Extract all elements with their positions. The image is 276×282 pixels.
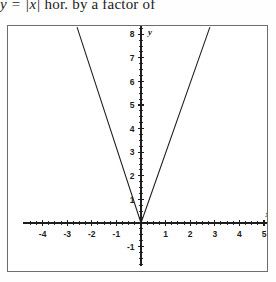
x-tick-label: -3 — [63, 229, 71, 239]
tick-labels-group: -4-3-2-112345-112345678 — [39, 29, 267, 251]
y-tick-label: 5 — [130, 100, 135, 110]
axis-labels-group: xy — [147, 27, 267, 219]
y-tick-label: 4 — [130, 124, 135, 134]
y-tick-label: 7 — [130, 53, 135, 63]
major-tick-marks — [43, 34, 264, 246]
curve-path — [77, 27, 210, 223]
y-tick-label: 3 — [130, 147, 135, 157]
caption-math: y = |x| — [0, 0, 41, 12]
caption-text-suffix: hor. by a factor of — [41, 0, 156, 12]
x-tick-label: 4 — [237, 229, 242, 239]
caption-text: y = |x| hor. by a factor of — [0, 0, 276, 18]
y-tick-label: -1 — [127, 242, 135, 252]
y-tick-label: 6 — [130, 77, 135, 87]
x-tick-label: 2 — [188, 229, 193, 239]
x-tick-label: -2 — [88, 229, 96, 239]
figure-page: y = |x| hor. by a factor of -4-3-2-11234… — [0, 0, 276, 282]
chart-frame: -4-3-2-112345-112345678 xy — [7, 25, 268, 272]
y-tick-label: 8 — [130, 29, 135, 39]
y-tick-label: 2 — [130, 171, 135, 181]
x-tick-label: -1 — [113, 229, 121, 239]
y-axis-label: y — [147, 27, 153, 37]
axis-lines — [23, 26, 267, 266]
absolute-value-curve — [77, 27, 210, 223]
x-axis-label: x — [264, 209, 267, 219]
coordinate-plane-plot: -4-3-2-112345-112345678 xy — [8, 26, 267, 271]
x-tick-label: 5 — [262, 229, 267, 239]
y-tick-label: 1 — [130, 195, 135, 205]
x-tick-label: 1 — [163, 229, 168, 239]
x-tick-label: -4 — [39, 229, 47, 239]
x-tick-label: 3 — [212, 229, 217, 239]
